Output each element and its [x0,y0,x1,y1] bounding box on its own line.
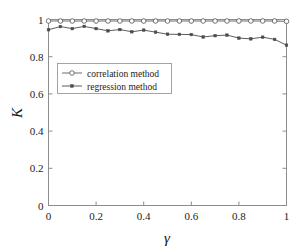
x-tick-label: 0.8 [232,210,246,222]
series-1 [46,19,289,24]
data-point-marker [238,37,241,40]
x-tick-label: 0 [46,210,52,222]
y-tick-label: 0.2 [30,162,44,174]
y-axis-title: K [9,107,25,119]
data-point-marker [95,27,98,30]
data-point-marker [189,19,194,24]
data-point-marker [284,19,289,24]
data-point-marker [141,19,146,24]
data-point-marker [165,19,170,24]
y-tick-label: 1 [38,14,44,26]
data-point-marker [249,19,254,24]
y-axis-tickmarks [49,20,287,206]
data-point-marker [202,36,205,39]
x-tick-label: 0.6 [184,210,198,222]
data-point-marker [166,33,169,36]
data-point-marker [190,33,193,36]
chart-legend: correlation methodregression method [58,64,172,94]
open-circle-marker-icon [70,71,75,76]
data-point-marker [250,38,253,41]
data-point-marker [178,33,181,36]
y-axis-tick-labels: 00.20.40.60.81 [30,14,44,212]
data-point-marker [58,19,63,24]
data-point-marker [82,19,87,24]
data-point-marker [107,30,110,33]
data-point-marker [285,44,288,47]
filled-square-marker-icon [71,85,74,88]
data-point-marker [94,19,99,24]
series-2 [47,25,288,46]
series-line [49,26,287,45]
data-point-marker [119,28,122,31]
data-point-marker [46,19,51,24]
y-tick-label: 0 [38,200,44,212]
x-tick-label: 0.4 [137,210,151,222]
data-point-marker [214,34,217,37]
data-point-marker [47,28,50,31]
data-point-marker [260,19,265,24]
y-tick-label: 0.4 [30,125,44,137]
data-point-marker [118,19,123,24]
data-point-marker [272,19,277,24]
data-point-marker [273,38,276,41]
figure-canvas: 00.20.40.60.81 00.20.40.60.81 γ K correl… [0,0,308,250]
x-tick-label: 1 [284,210,290,222]
x-tick-label: 0.2 [89,210,103,222]
data-point-marker [59,25,62,28]
data-point-marker [201,19,206,24]
x-axis-title: γ [164,230,171,246]
data-point-marker [261,36,264,39]
data-point-marker [106,19,111,24]
data-point-marker [154,31,157,34]
data-point-marker [213,19,218,24]
data-point-marker [226,34,229,37]
data-point-marker [142,29,145,32]
x-axis-tickmarks [49,20,287,206]
x-axis-tick-labels: 00.20.40.60.81 [46,210,290,222]
y-tick-label: 0.6 [30,88,44,100]
data-point-marker [177,19,182,24]
data-point-marker [131,30,134,33]
legend-item-label: correlation method [87,69,159,79]
data-point-marker [225,19,230,24]
data-point-marker [71,27,74,30]
data-point-marker [153,19,158,24]
data-point-marker [83,25,86,28]
data-point-marker [70,19,75,24]
data-point-marker [130,19,135,24]
y-tick-label: 0.8 [30,51,44,63]
plot-frame [49,20,287,206]
chart-plot: 00.20.40.60.81 00.20.40.60.81 γ K correl… [0,0,308,250]
data-point-marker [237,19,242,24]
data-series-layer [46,19,289,47]
legend-item-label: regression method [87,82,157,92]
